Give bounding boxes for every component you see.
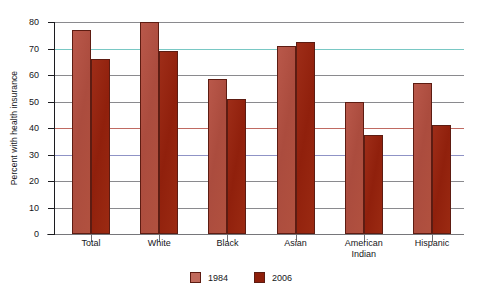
bar-1984-white — [140, 22, 159, 234]
y-tick-60: 60 — [48, 75, 55, 76]
bar-group — [72, 22, 110, 234]
x-category-label-line: Hispanic — [392, 238, 472, 249]
x-category-label-hispanic: Hispanic — [392, 238, 472, 249]
bar-2006-white — [159, 51, 178, 234]
y-tick-80: 80 — [48, 22, 55, 23]
y-tick-30: 30 — [48, 155, 55, 156]
y-tick-label-30: 30 — [29, 150, 39, 160]
y-tick-0: 0 — [48, 234, 55, 235]
bar-group — [208, 22, 246, 234]
legend-swatch-1984 — [190, 272, 201, 283]
bar-1984-black — [208, 79, 227, 234]
bar-2006-hispanic — [432, 125, 451, 234]
plot-area: 01020304050607080 — [55, 22, 464, 234]
y-tick-label-50: 50 — [29, 97, 39, 107]
y-tick-label-80: 80 — [29, 17, 39, 27]
bar-group — [345, 22, 383, 234]
bar-1984-hispanic — [413, 83, 432, 234]
x-axis-line — [47, 234, 464, 235]
gridline-50 — [55, 102, 464, 103]
gridline-10 — [55, 208, 464, 209]
legend-item-2006[interactable]: 2006 — [254, 272, 292, 283]
x-category-label-line: Indian — [324, 249, 404, 260]
bar-2006-american-indian — [364, 135, 383, 234]
bar-2006-asian — [296, 42, 315, 234]
bar-2006-total — [91, 59, 110, 234]
bar-group — [140, 22, 178, 234]
legend-label-2006: 2006 — [272, 273, 292, 283]
bar-group — [413, 22, 451, 234]
y-tick-40: 40 — [48, 128, 55, 129]
y-tick-50: 50 — [48, 102, 55, 103]
bar-chart-figure: Percent with health insurance 0102030405… — [0, 0, 482, 304]
bar-group — [277, 22, 315, 234]
bar-2006-black — [227, 99, 246, 234]
bar-1984-american-indian — [345, 102, 364, 235]
chart-legend: 19842006 — [0, 272, 482, 283]
bar-1984-asian — [277, 46, 296, 234]
y-tick-10: 10 — [48, 208, 55, 209]
y-tick-label-20: 20 — [29, 176, 39, 186]
legend-swatch-2006 — [254, 272, 265, 283]
y-tick-label-60: 60 — [29, 70, 39, 80]
legend-item-1984[interactable]: 1984 — [190, 272, 228, 283]
gridline-80 — [55, 22, 464, 23]
y-tick-70: 70 — [48, 49, 55, 50]
gridline-70 — [55, 49, 464, 50]
gridline-60 — [55, 75, 464, 76]
gridline-40 — [55, 128, 464, 129]
y-axis-title: Percent with health insurance — [4, 20, 24, 235]
y-axis-title-text: Percent with health insurance — [9, 70, 19, 184]
legend-label-1984: 1984 — [208, 273, 228, 283]
y-tick-label-70: 70 — [29, 44, 39, 54]
gridline-20 — [55, 181, 464, 182]
y-tick-20: 20 — [48, 181, 55, 182]
bar-1984-total — [72, 30, 91, 234]
y-tick-label-40: 40 — [29, 123, 39, 133]
y-tick-label-0: 0 — [34, 229, 39, 239]
gridline-30 — [55, 155, 464, 156]
y-tick-label-10: 10 — [29, 203, 39, 213]
